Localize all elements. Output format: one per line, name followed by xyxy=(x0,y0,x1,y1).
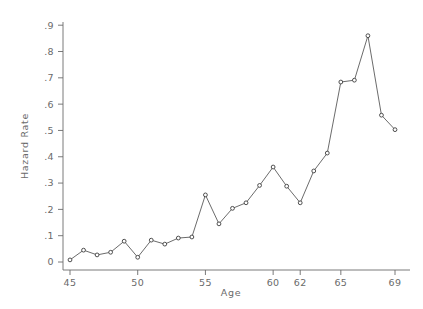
x-tick-label: 65 xyxy=(334,277,347,288)
y-tick-label: .7 xyxy=(44,72,54,83)
data-point xyxy=(231,206,235,210)
data-point xyxy=(136,255,140,259)
x-tick-label: 62 xyxy=(294,277,307,288)
hazard-rate-line xyxy=(70,36,395,260)
data-point xyxy=(190,235,194,239)
x-tick-label: 50 xyxy=(131,277,144,288)
data-point xyxy=(339,80,343,84)
y-tick-label: .6 xyxy=(44,99,54,110)
data-point xyxy=(82,248,86,252)
data-point xyxy=(109,250,113,254)
data-point xyxy=(176,236,180,240)
x-axis-title: Age xyxy=(221,287,241,298)
y-tick-label: .1 xyxy=(44,230,54,241)
data-point xyxy=(366,34,370,38)
data-point xyxy=(312,169,316,173)
data-point xyxy=(149,238,153,242)
y-tick-label: .5 xyxy=(44,125,54,136)
y-axis-title: Hazard Rate xyxy=(19,113,30,179)
y-tick-label: .3 xyxy=(44,177,54,188)
data-point xyxy=(352,78,356,82)
y-axis-ticks xyxy=(58,25,63,262)
y-tick-label: 0 xyxy=(48,256,54,267)
data-point xyxy=(380,113,384,117)
data-point xyxy=(271,165,275,169)
data-point xyxy=(298,201,302,205)
x-axis: 45505560626569 xyxy=(63,270,410,288)
y-tick-label: .9 xyxy=(44,20,54,31)
x-tick-label: 55 xyxy=(199,277,212,288)
y-axis: 0.1.2.3.4.5.6.7.8.9 xyxy=(44,20,63,270)
y-tick-label: .2 xyxy=(44,204,54,215)
x-tick-label: 60 xyxy=(267,277,280,288)
data-point xyxy=(217,222,221,226)
x-tick-label: 69 xyxy=(389,277,402,288)
data-point xyxy=(95,253,99,257)
data-point xyxy=(163,242,167,246)
hazard-rate-chart: 0.1.2.3.4.5.6.7.8.9 45505560626569 Age H… xyxy=(0,0,423,309)
data-point xyxy=(258,184,262,188)
data-point xyxy=(122,239,126,243)
data-point xyxy=(393,128,397,132)
y-axis-tick-labels: 0.1.2.3.4.5.6.7.8.9 xyxy=(44,20,54,268)
data-point xyxy=(204,193,208,197)
data-point xyxy=(285,184,289,188)
y-tick-label: .8 xyxy=(44,46,54,57)
data-point xyxy=(68,258,72,262)
data-point xyxy=(325,151,329,155)
x-axis-ticks xyxy=(70,270,395,275)
hazard-rate-markers xyxy=(68,34,397,262)
data-point xyxy=(244,201,248,205)
chart-canvas: 0.1.2.3.4.5.6.7.8.9 45505560626569 Age H… xyxy=(0,0,423,309)
y-tick-label: .4 xyxy=(44,151,54,162)
x-tick-label: 45 xyxy=(64,277,77,288)
